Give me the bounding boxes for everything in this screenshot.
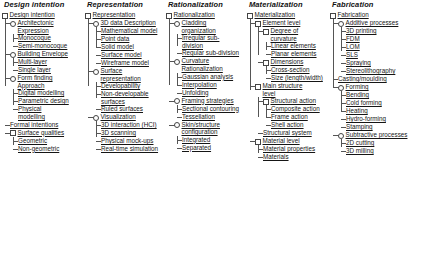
tree-node-row[interactable]: Structural system <box>263 129 325 137</box>
tree-node-row[interactable]: Non-developable surfaces <box>101 90 159 105</box>
tree-node-row[interactable]: 3D milling <box>346 147 407 155</box>
tree-node-row[interactable]: 2D cutting <box>346 139 407 147</box>
tree-node-row[interactable]: Planar elements <box>271 50 325 58</box>
tree-node-row[interactable]: Framing strategies <box>174 97 240 105</box>
tree-node-row[interactable]: Digital modelling <box>18 89 70 97</box>
tree-node-row[interactable]: Materialization <box>247 11 325 19</box>
expand-circle-icon[interactable] <box>174 59 180 65</box>
expand-box-icon[interactable] <box>255 84 261 90</box>
tree-node-row[interactable]: Architectonic Expression <box>10 19 70 34</box>
expand-circle-icon[interactable] <box>338 85 344 91</box>
expand-box-icon[interactable] <box>330 13 336 19</box>
tree-node-row[interactable]: Surface representation <box>93 67 159 82</box>
expand-box-icon[interactable] <box>85 13 91 19</box>
tree-node-row[interactable]: 3D printing <box>346 27 407 35</box>
tree-node-row[interactable]: Stereolithography <box>346 67 407 75</box>
tree-node-row[interactable]: Spraying <box>346 59 407 67</box>
tree-node-row[interactable]: Physical modelling <box>18 105 70 120</box>
expand-circle-icon[interactable] <box>93 115 99 121</box>
tree-node-row[interactable]: Cross-section <box>271 66 325 74</box>
tree-node-row[interactable]: Shell action <box>271 121 325 129</box>
tree-node-row[interactable]: Semi-monocoque <box>18 42 70 50</box>
tree-node-row[interactable]: Element level <box>255 19 325 27</box>
tree-node-row[interactable]: Parametric design <box>18 97 70 105</box>
tree-node-row[interactable]: Wireframe model <box>101 59 159 67</box>
tree-node-row[interactable]: Formal intentions <box>10 121 70 129</box>
tree-node-row[interactable]: Fabrication <box>330 11 407 19</box>
tree-node-row[interactable]: Design intention <box>2 11 70 19</box>
expand-circle-icon[interactable] <box>174 21 180 27</box>
expand-box-icon[interactable] <box>255 21 261 27</box>
tree-node-row[interactable]: Casting/moulding <box>338 75 407 83</box>
tree-node-row[interactable]: Developability <box>101 82 159 90</box>
expand-circle-icon[interactable] <box>10 52 16 58</box>
expand-circle-icon[interactable] <box>338 21 344 27</box>
tree-node-row[interactable]: Main structure level <box>255 82 325 97</box>
tree-node-row[interactable]: Real-time simulation <box>101 145 159 153</box>
tree-node-row[interactable]: Interpolation <box>182 81 240 89</box>
tree-node-row[interactable]: 3D scanning <box>101 129 159 137</box>
tree-node-row[interactable]: Multi-layer <box>18 58 70 66</box>
tree-node-row[interactable]: Degree of curvature <box>263 27 325 42</box>
tree-node-row[interactable]: 3D interaction (HCI) <box>101 121 159 129</box>
tree-node-row[interactable]: SLS <box>346 51 407 59</box>
expand-box-icon[interactable] <box>263 99 269 105</box>
tree-node-row[interactable]: Stamping <box>346 123 407 131</box>
tree-node-row[interactable]: Cladding organization <box>174 19 240 34</box>
tree-node-row[interactable]: FDM <box>346 35 407 43</box>
tree-node-row[interactable]: Skin/structure configuration <box>174 121 240 136</box>
expand-circle-icon[interactable] <box>93 69 99 75</box>
tree-node-row[interactable]: Ruled surfaces <box>101 105 159 113</box>
tree-node-row[interactable]: Mathematical model <box>101 27 159 35</box>
tree-node-row[interactable]: Solid model <box>101 43 159 51</box>
expand-box-icon[interactable] <box>166 13 172 19</box>
tree-node-row[interactable]: Linear elements <box>271 42 325 50</box>
expand-box-icon[interactable] <box>263 60 269 66</box>
expand-circle-icon[interactable] <box>10 21 16 27</box>
tree-node-row[interactable]: Building Envelope <box>10 50 70 58</box>
expand-box-icon[interactable] <box>263 29 269 35</box>
tree-node-row[interactable]: Frame action <box>271 113 325 121</box>
tree-node-row[interactable]: Point data <box>101 35 159 43</box>
expand-circle-icon[interactable] <box>174 122 180 128</box>
tree-node-row[interactable]: Rationalization <box>166 11 240 19</box>
tree-node-row[interactable]: Sectional contouring <box>182 105 240 113</box>
tree-node-row[interactable]: Material properties <box>263 145 325 153</box>
expand-box-icon[interactable] <box>247 13 253 19</box>
tree-node-row[interactable]: Structural action <box>263 97 325 105</box>
tree-node-row[interactable]: Geometric <box>18 137 70 145</box>
expand-circle-icon[interactable] <box>338 133 344 139</box>
tree-node-row[interactable]: Separated <box>182 144 240 152</box>
tree-node-row[interactable]: Monocoque <box>18 34 70 42</box>
tree-node-row[interactable]: Physical mock-ups <box>101 137 159 145</box>
tree-node-row[interactable]: Surface model <box>101 51 159 59</box>
expand-circle-icon[interactable] <box>174 98 180 104</box>
tree-node-row[interactable]: Irregular sub-division <box>182 34 240 49</box>
tree-node-row[interactable]: Unfolding <box>182 89 240 97</box>
tree-node-row[interactable]: Subtractive processes <box>338 131 407 139</box>
tree-node-row[interactable]: Material level <box>255 137 325 145</box>
tree-node-row[interactable]: Curvature Rationalization <box>174 57 240 72</box>
expand-circle-icon[interactable] <box>93 21 99 27</box>
tree-node-row[interactable]: Size (length/width) <box>271 74 325 82</box>
tree-node-row[interactable]: Forming <box>338 83 407 91</box>
tree-node-row[interactable]: Non-geometric <box>18 145 70 153</box>
expand-box-icon[interactable] <box>255 139 261 145</box>
tree-node-row[interactable]: Hydro-forming <box>346 115 407 123</box>
tree-node-row[interactable]: LOM <box>346 43 407 51</box>
tree-node-row[interactable]: Composite action <box>271 105 325 113</box>
tree-node-row[interactable]: 3D data Description <box>93 19 159 27</box>
tree-node-row[interactable]: Visualization <box>93 113 159 121</box>
expand-circle-icon[interactable] <box>10 76 16 82</box>
tree-node-row[interactable]: Integrated <box>182 136 240 144</box>
tree-node-row[interactable]: Gaussian analysis <box>182 73 240 81</box>
tree-node-row[interactable]: Dimensions <box>263 58 325 66</box>
tree-node-row[interactable]: Representation <box>85 11 159 19</box>
tree-node-row[interactable]: Bending <box>346 91 407 99</box>
expand-box-icon[interactable] <box>10 130 16 136</box>
tree-node-row[interactable]: Tessellation <box>182 113 240 121</box>
tree-node-row[interactable]: Heating <box>346 107 407 115</box>
tree-node-row[interactable]: Materials <box>263 153 325 161</box>
tree-node-row[interactable]: Surface qualities <box>10 129 70 137</box>
tree-node-row[interactable]: Regular sub-division <box>182 49 240 57</box>
